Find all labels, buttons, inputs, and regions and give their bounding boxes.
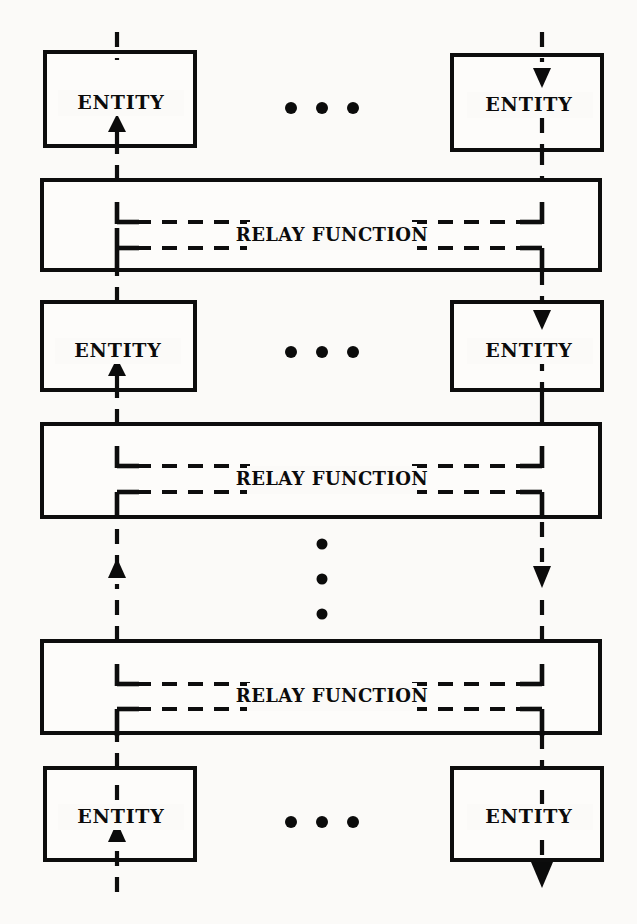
relay-band-2-label: RELAY FUNCTION xyxy=(236,468,428,489)
entity-top-right-label: ENTITY xyxy=(485,93,572,115)
entity-bottom-right-label: ENTITY xyxy=(485,805,572,827)
relay-function-diagram: ENTITY ENTITY RELAY FUNCTION ENTITY ENTI… xyxy=(0,0,637,924)
row-separator-ellipsis-bottom xyxy=(285,816,359,828)
entity-bottom-left-label: ENTITY xyxy=(77,805,164,827)
arrowhead-left-middle-up xyxy=(108,558,126,578)
entity-second-left-label: ENTITY xyxy=(74,339,161,361)
entity-second-right-label: ENTITY xyxy=(485,339,572,361)
diagram-canvas: ENTITY ENTITY RELAY FUNCTION ENTITY ENTI… xyxy=(0,0,637,924)
entity-top-left-label: ENTITY xyxy=(77,91,164,113)
vertical-ellipsis xyxy=(317,539,328,620)
row-separator-ellipsis-second xyxy=(285,346,359,358)
row-separator-ellipsis-top xyxy=(285,102,359,114)
relay-band-3-label: RELAY FUNCTION xyxy=(236,685,428,706)
relay-band-1-label: RELAY FUNCTION xyxy=(236,224,428,245)
arrowhead-right-bottom-down xyxy=(531,862,553,888)
arrowhead-right-middle-down xyxy=(533,566,551,588)
